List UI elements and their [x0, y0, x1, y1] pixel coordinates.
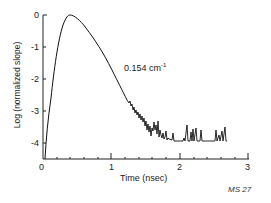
x-ticks	[57, 153, 248, 159]
y-axis-title: Log (normalized slope)	[12, 30, 22, 140]
x-tick-label-2: 2	[177, 163, 182, 172]
data-curve	[45, 15, 127, 159]
x-tick-label-1: 1	[109, 163, 114, 172]
data-noise	[127, 100, 227, 141]
y-tick-label-1: -1	[31, 43, 39, 52]
y-ticks	[43, 15, 47, 143]
y-tick-label-4: -4	[31, 139, 39, 148]
attenuation-annotation: 0.154 cm-1	[124, 62, 166, 73]
figure-id: MS 27	[228, 185, 251, 194]
y-tick-label-3: -3	[31, 107, 39, 116]
x-axis-title: Time (nsec)	[120, 174, 167, 183]
annotation-exponent: -1	[161, 62, 166, 68]
y-tick-label-2: -2	[31, 75, 39, 84]
x-tick-label-3: 3	[245, 163, 250, 172]
y-tick-label-0: 0	[34, 11, 39, 20]
x-tick-label-0: 0	[39, 163, 44, 172]
annotation-value: 0.154 cm	[124, 63, 161, 73]
